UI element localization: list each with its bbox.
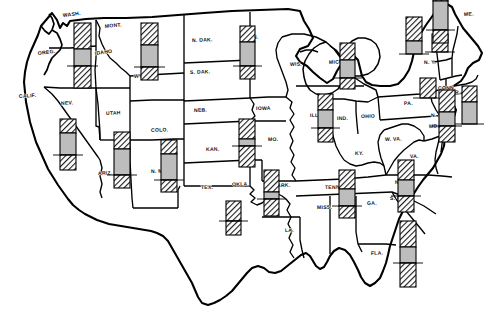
bar-segment-bottom: [264, 199, 279, 216]
state-label-n-dak: N. DAK.: [192, 36, 213, 43]
bar-segment-top: [406, 17, 422, 41]
state-label-tex: TEX.: [201, 184, 214, 190]
bar-segment-top: [240, 26, 255, 42]
bar-segment-top: [340, 43, 355, 60]
bar-segment-top: [264, 170, 279, 192]
bar-segment-middle: [398, 180, 414, 196]
bar-segment-bottom: [114, 175, 130, 188]
bar-segment-top: [226, 201, 241, 221]
state-label-calif: CALIF.: [19, 92, 37, 99]
state-label-la: LA.: [285, 227, 294, 233]
state-label-s-dak: S. DAK.: [190, 68, 211, 75]
bar-segment-bottom: [141, 67, 158, 80]
bar-segment-top: [239, 119, 255, 139]
bar-segment-top: [400, 221, 416, 247]
state-label-okla: OKLA.: [232, 181, 250, 187]
state-label-ohio: OHIO: [361, 113, 375, 119]
bar-segment-bottom: [226, 221, 241, 235]
state-label-neb: NEB.: [194, 107, 208, 113]
bar-segment-bottom: [398, 196, 414, 212]
bar-segment-bottom: [433, 30, 448, 43]
state-label-ind: IND.: [337, 115, 349, 121]
bar-segment-middle: [141, 45, 158, 67]
bar-segment-middle: [60, 133, 76, 155]
bar-segment-top: [439, 90, 455, 112]
bar-segment-middle: [74, 49, 91, 66]
bar-segment-top: [114, 132, 130, 149]
state-label-w-va: W. VA.: [385, 135, 403, 142]
bar-segment-top: [420, 78, 436, 98]
bar-segment-middle: [439, 112, 455, 126]
state-label-utah: UTAH: [106, 109, 121, 116]
us-map-svg: WASH.OREG.IDAHOMONT.WYO.N. DAK.S. DAK.MI…: [0, 0, 502, 327]
bar-segment-middle: [339, 189, 355, 206]
bar-segment-top: [141, 23, 158, 45]
bar-segment-top: [74, 23, 91, 49]
bar-segment-bottom: [240, 66, 255, 79]
state-label-n-y: N. Y.: [424, 59, 436, 65]
bar-segment-bottom: [339, 206, 355, 218]
bar-segment-bottom: [161, 180, 177, 192]
bar-segment-middle: [406, 41, 422, 54]
bar-fla: [393, 221, 423, 287]
bar-segment-top: [398, 160, 414, 180]
bar-segment-top: [339, 170, 355, 189]
bar-segment-bottom: [318, 128, 333, 142]
bar-segment-middle: [240, 42, 255, 66]
bar-segment-bottom: [400, 263, 416, 287]
bar-segment-bottom: [239, 146, 255, 167]
bar-segment-top: [161, 140, 177, 154]
state-label-me: ME.: [464, 10, 474, 17]
state-label-mo: MO.: [268, 136, 279, 142]
state-label-fla: FLA.: [371, 249, 384, 256]
state-label-ga: GA.: [367, 200, 377, 206]
bar-segment-top: [462, 86, 477, 102]
state-label-pa: PA.: [404, 100, 413, 106]
state-label-nev: NEV.: [61, 99, 74, 106]
bar-segment-bottom: [60, 155, 76, 170]
bar-segment-middle: [400, 247, 416, 263]
bar-segment-top: [318, 94, 333, 110]
bar-segment-bottom: [74, 66, 91, 88]
map-figure: WASH.OREG.IDAHOMONT.WYO.N. DAK.S. DAK.MI…: [0, 0, 502, 327]
bar-segment-middle: [433, 1, 448, 30]
bar-segment-middle: [114, 149, 130, 175]
bar-segment-bottom: [340, 78, 355, 89]
state-label-kan: KAN.: [206, 146, 220, 152]
state-label-wash: WASH.: [62, 10, 81, 18]
bar-segment-top: [60, 119, 76, 133]
state-label-iowa: IOWA: [256, 105, 271, 111]
bar-segment-bottom: [439, 126, 455, 142]
bar-segment-middle: [239, 139, 255, 146]
state-label-va: VA.: [410, 153, 419, 159]
state-label-wis: WIS.: [290, 61, 303, 67]
bar-segment-middle: [161, 154, 177, 180]
state-label-ky: KY.: [355, 150, 364, 156]
state-label-colo: COLO.: [151, 126, 169, 133]
bar-segment-middle: [462, 102, 477, 124]
bar-segment-middle: [340, 60, 355, 78]
bar-segment-middle: [264, 192, 279, 199]
state-label-miss: MISS.: [317, 204, 333, 210]
bar-segment-middle: [318, 110, 333, 128]
